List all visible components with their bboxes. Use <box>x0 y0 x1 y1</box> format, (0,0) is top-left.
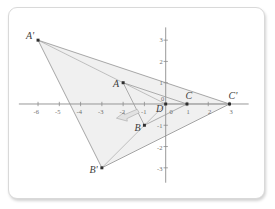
figure-card: ABCDA'B'C'-6-5-4-3-2-10123-3-2-10123 <box>8 7 265 199</box>
point-D <box>164 103 167 106</box>
x-tick-label-0: 0 <box>170 109 173 116</box>
x-tick-label-2: 2 <box>208 109 211 116</box>
point-C <box>185 103 188 106</box>
x-tick-label-1: 1 <box>187 109 190 116</box>
y-tick-label--1: -1 <box>157 123 162 130</box>
point-label-Bprime: B' <box>90 165 98 175</box>
x-tick-label-3: 3 <box>230 109 233 116</box>
y-tick-label-2: 2 <box>160 59 163 66</box>
y-tick-label-3: 3 <box>160 37 163 44</box>
point-label-B: B <box>135 123 141 133</box>
x-tick-label--4: -4 <box>77 109 82 116</box>
point-B <box>143 124 146 127</box>
point-Bprime <box>100 166 103 169</box>
x-tick-label--3: -3 <box>98 109 103 116</box>
point-label-Cprime: C' <box>229 91 238 101</box>
y-tick-label-0: 0 <box>161 96 164 103</box>
point-A <box>122 81 125 84</box>
x-tick-label--5: -5 <box>55 109 60 116</box>
x-tick-label--2: -2 <box>120 109 125 116</box>
point-Aprime <box>37 39 40 42</box>
y-tick-label-1: 1 <box>160 80 163 87</box>
point-label-D: D <box>156 104 163 114</box>
x-tick-label--1: -1 <box>141 109 146 116</box>
x-tick-label--6: -6 <box>34 109 39 116</box>
coordinate-plane <box>9 8 264 198</box>
point-Cprime <box>228 103 231 106</box>
point-label-Aprime: A' <box>26 31 34 41</box>
point-label-A: A <box>113 79 119 89</box>
y-tick-label--3: -3 <box>157 166 162 173</box>
y-tick-label--2: -2 <box>157 145 162 152</box>
point-label-C: C <box>186 91 193 101</box>
